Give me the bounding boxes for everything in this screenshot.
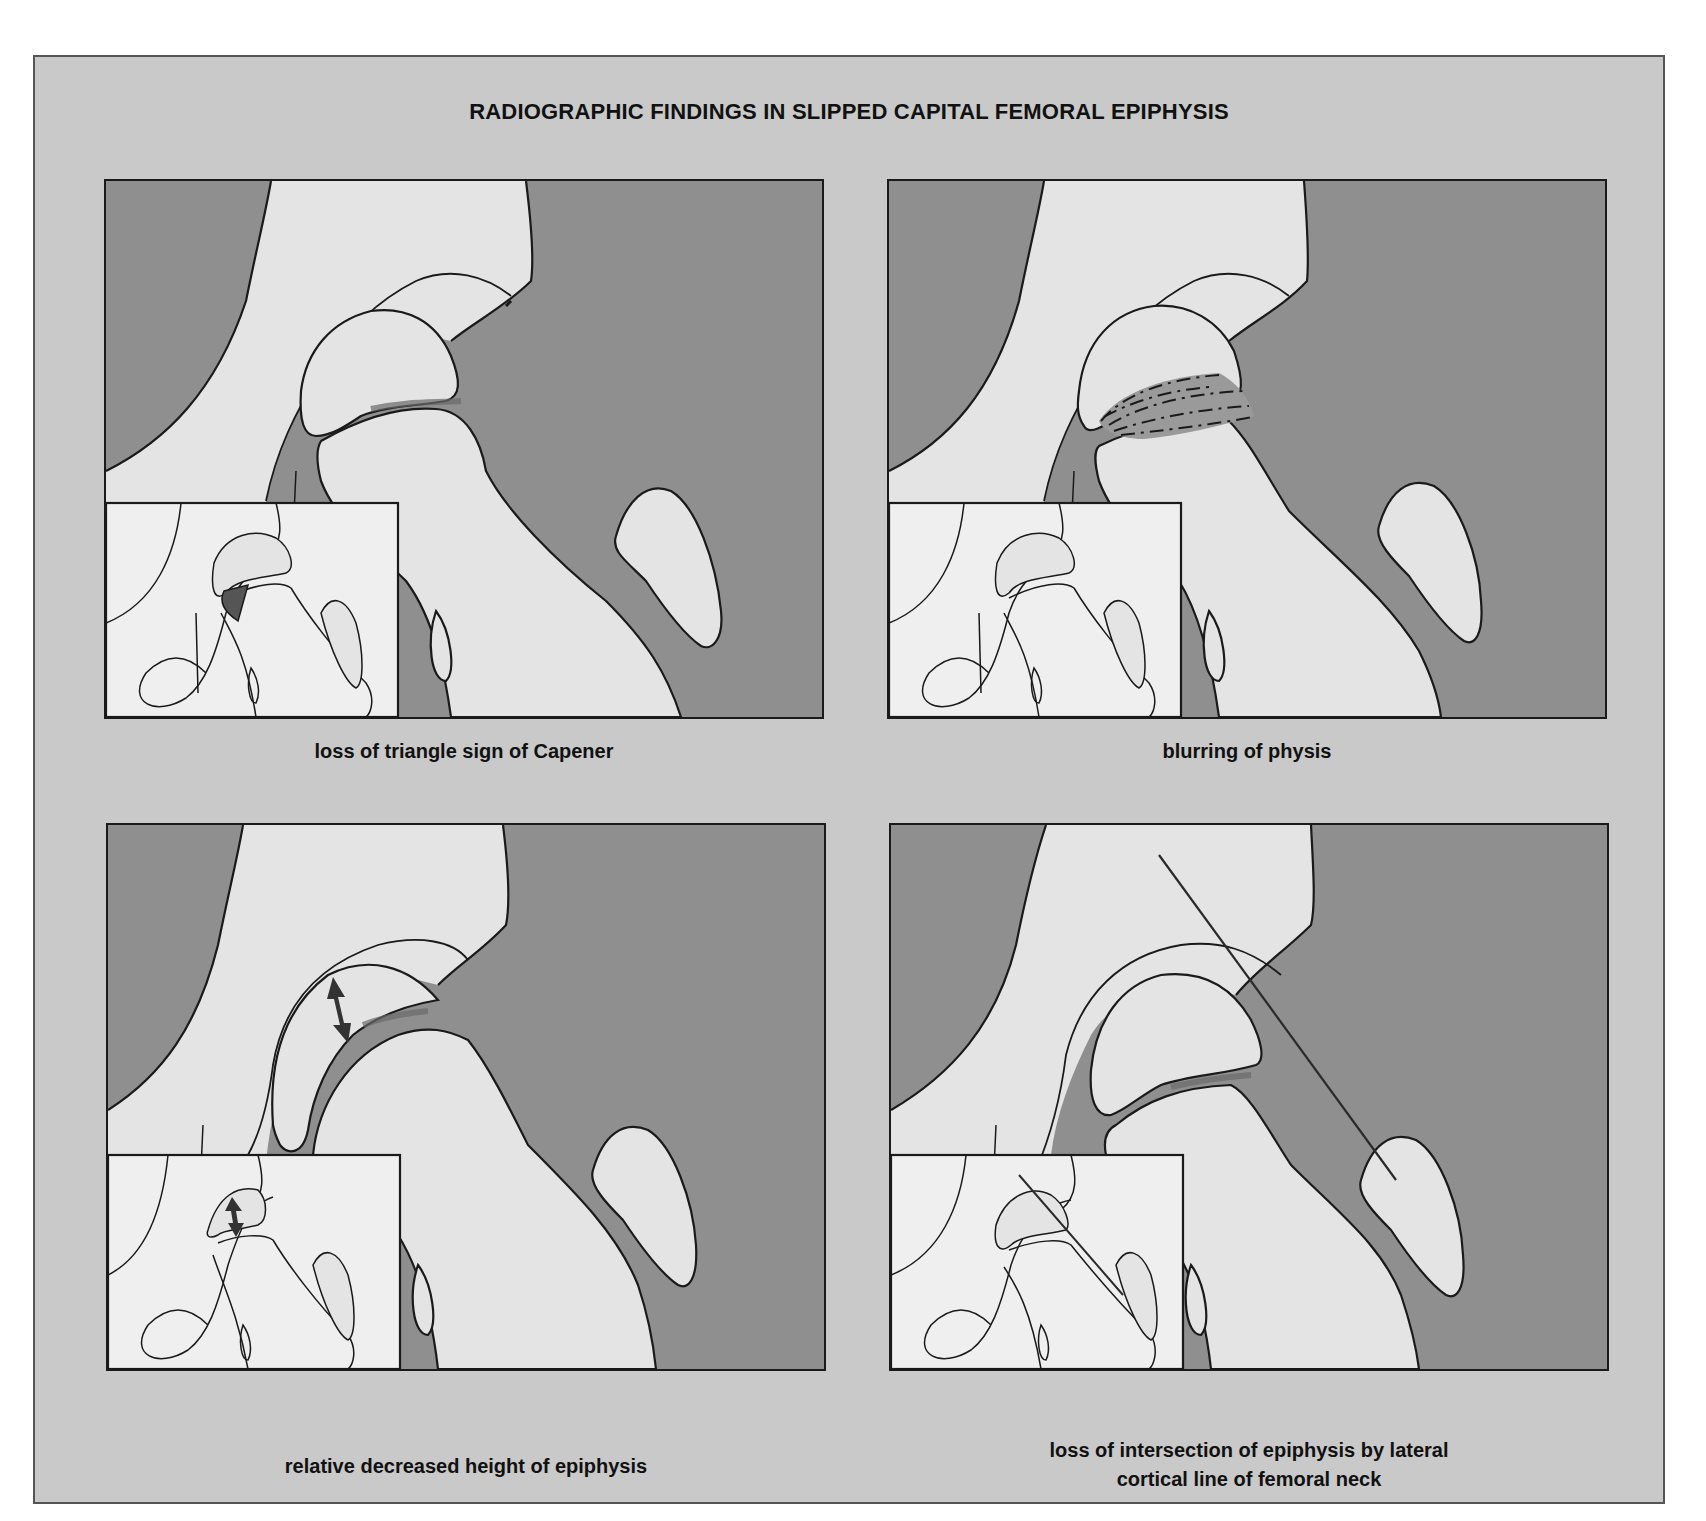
panel-blurring-of-physis: [887, 179, 1607, 719]
caption-klein-line-2: cortical line of femoral neck: [889, 1465, 1609, 1494]
hip-joint-illustration: [889, 181, 1605, 717]
panel-klein-line: [889, 823, 1609, 1371]
figure-frame: RADIOGRAPHIC FINDINGS IN SLIPPED CAPITAL…: [33, 55, 1665, 1504]
caption-klein-line: loss of intersection of epiphysis by lat…: [889, 1436, 1609, 1494]
inset-height-comparison: [108, 1155, 400, 1369]
inset-klein-line: [891, 1155, 1183, 1369]
hip-joint-illustration: [891, 825, 1607, 1369]
inset-normal-hip: [106, 503, 398, 717]
panel-triangle-sign-of-capener: [104, 179, 824, 719]
panel-decreased-epiphysis-height: [106, 823, 826, 1371]
caption-decreased-epiphysis-height: relative decreased height of epiphysis: [106, 1452, 826, 1481]
caption-triangle-sign-of-capener: loss of triangle sign of Capener: [104, 737, 824, 766]
hip-joint-illustration: [106, 181, 822, 717]
caption-klein-line-1: loss of intersection of epiphysis by lat…: [889, 1436, 1609, 1465]
caption-blurring-of-physis: blurring of physis: [887, 737, 1607, 766]
hip-joint-illustration: [108, 825, 824, 1369]
inset-normal-hip: [889, 503, 1181, 717]
figure-title: RADIOGRAPHIC FINDINGS IN SLIPPED CAPITAL…: [35, 99, 1663, 125]
